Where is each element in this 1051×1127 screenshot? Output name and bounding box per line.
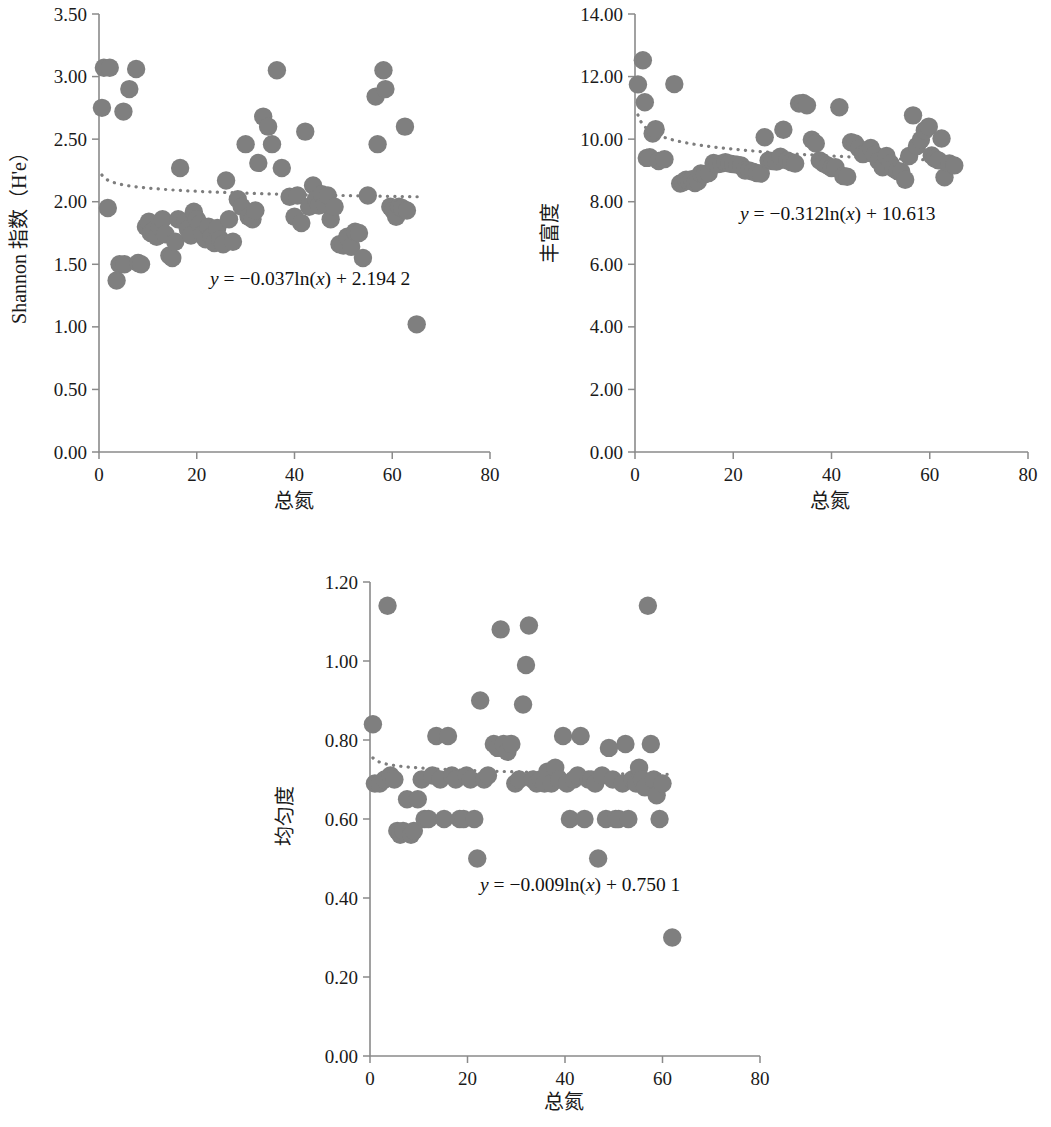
data-point xyxy=(163,249,181,267)
x-tick-label: 80 xyxy=(481,464,500,485)
chart-panel-shannon: 0.000.501.001.502.002.503.003.5002040608… xyxy=(0,0,520,540)
y-tick-label: 14.00 xyxy=(580,4,623,25)
chart-panel-richness: 0.002.004.006.008.0010.0012.0014.0002040… xyxy=(528,0,1051,540)
data-point xyxy=(385,770,403,788)
x-tick-label: 80 xyxy=(1019,464,1038,485)
data-point xyxy=(502,735,520,753)
data-point xyxy=(439,727,457,745)
data-point xyxy=(217,171,235,189)
data-point xyxy=(575,810,593,828)
x-tick-label: 40 xyxy=(285,464,304,485)
data-point xyxy=(259,117,277,135)
data-point xyxy=(629,75,647,93)
y-tick-label: 2.50 xyxy=(54,129,87,150)
data-point xyxy=(268,61,286,79)
data-point xyxy=(642,735,660,753)
data-point xyxy=(945,156,963,174)
data-point xyxy=(830,98,848,116)
data-point xyxy=(93,99,111,117)
data-point xyxy=(755,128,773,146)
data-point xyxy=(325,198,343,216)
trendline-equation: y = −0.009ln(x) + 0.750 1 xyxy=(478,874,680,896)
data-point xyxy=(171,159,189,177)
data-point xyxy=(932,129,950,147)
x-tick-label: 20 xyxy=(458,1068,477,1089)
y-tick-label: 1.00 xyxy=(325,651,358,672)
y-tick-label: 12.00 xyxy=(580,66,623,87)
data-point xyxy=(236,135,254,153)
x-tick-label: 0 xyxy=(630,464,640,485)
data-point xyxy=(120,80,138,98)
data-point xyxy=(409,790,427,808)
data-point xyxy=(655,150,673,168)
x-axis-title: 总氮 xyxy=(544,1091,584,1113)
data-point xyxy=(374,61,392,79)
data-point xyxy=(589,849,607,867)
data-point xyxy=(520,616,538,634)
data-point xyxy=(646,120,664,138)
shannon-scatter-plot: 0.000.501.001.502.002.503.003.5002040608… xyxy=(0,0,520,540)
x-tick-label: 0 xyxy=(365,1068,375,1089)
x-tick-label: 20 xyxy=(187,464,206,485)
data-point xyxy=(619,810,637,828)
y-tick-label: 8.00 xyxy=(590,191,623,212)
y-tick-label: 1.20 xyxy=(325,572,358,593)
data-point xyxy=(101,59,119,77)
y-tick-label: 0.60 xyxy=(325,809,358,830)
data-point xyxy=(378,597,396,615)
data-point xyxy=(249,154,267,172)
data-point xyxy=(354,249,372,267)
trendline-equation: y = −0.037ln(x) + 2.194 2 xyxy=(208,268,410,290)
data-point xyxy=(359,186,377,204)
data-point-group xyxy=(93,59,426,334)
x-axis-title: 总氮 xyxy=(810,490,850,512)
data-point xyxy=(273,159,291,177)
y-tick-label: 10.00 xyxy=(580,129,623,150)
data-point xyxy=(774,121,792,139)
data-point-group xyxy=(629,51,964,193)
trendline-equation: y = −0.312ln(x) + 10.613 xyxy=(738,203,935,225)
data-point xyxy=(600,739,618,757)
data-point xyxy=(636,93,654,111)
x-tick-label: 20 xyxy=(724,464,743,485)
y-tick-label: 1.00 xyxy=(54,316,87,337)
data-point xyxy=(634,51,652,69)
data-point xyxy=(465,810,483,828)
x-tick-label: 60 xyxy=(920,464,939,485)
y-tick-label: 0.00 xyxy=(54,442,87,463)
data-point xyxy=(571,727,589,745)
x-tick-label: 40 xyxy=(556,1068,575,1089)
y-tick-label: 0.40 xyxy=(325,888,358,909)
data-point xyxy=(639,597,657,615)
x-axis-title: 总氮 xyxy=(274,490,314,512)
data-point xyxy=(246,201,264,219)
data-point xyxy=(292,214,310,232)
y-tick-label: 3.50 xyxy=(54,4,87,25)
x-tick-label: 80 xyxy=(751,1068,770,1089)
data-point xyxy=(896,171,914,189)
data-point xyxy=(650,810,668,828)
data-point xyxy=(132,255,150,273)
x-tick-label: 60 xyxy=(383,464,402,485)
y-tick-label: 0.20 xyxy=(325,967,358,988)
x-tick-label: 40 xyxy=(822,464,841,485)
y-axis-title: 均匀度 xyxy=(274,786,296,846)
data-point xyxy=(107,271,125,289)
y-axis-title: 丰富度 xyxy=(539,203,561,263)
data-point xyxy=(479,766,497,784)
data-point xyxy=(554,727,572,745)
data-point xyxy=(396,117,414,135)
data-point xyxy=(296,122,314,140)
data-point xyxy=(114,102,132,120)
richness-scatter-plot: 0.002.004.006.008.0010.0012.0014.0002040… xyxy=(528,0,1051,540)
y-tick-label: 2.00 xyxy=(54,191,87,212)
y-tick-label: 0.50 xyxy=(54,379,87,400)
y-tick-label: 1.50 xyxy=(54,254,87,275)
data-point xyxy=(786,154,804,172)
data-point xyxy=(99,199,117,217)
data-point xyxy=(517,656,535,674)
data-point xyxy=(350,224,368,242)
data-point xyxy=(514,695,532,713)
data-point xyxy=(224,233,242,251)
data-point xyxy=(904,106,922,124)
